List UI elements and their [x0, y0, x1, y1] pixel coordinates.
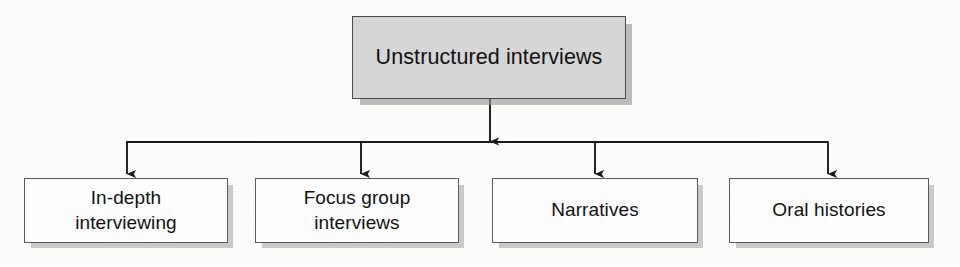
node-unstructured-interviews[interactable]: Unstructured interviews — [352, 16, 626, 99]
node-focus-group-interviews[interactable]: Focus group interviews — [255, 178, 459, 243]
node-oral-histories[interactable]: Oral histories — [729, 178, 929, 243]
node-in-depth-interviewing[interactable]: In-depth interviewing — [24, 178, 228, 243]
diagram-canvas: Unstructured interviews In-depth intervi… — [0, 0, 960, 267]
node-label: Focus group interviews — [304, 186, 411, 235]
node-label: In-depth interviewing — [75, 186, 177, 235]
node-narratives[interactable]: Narratives — [492, 178, 698, 243]
node-label: Oral histories — [772, 198, 885, 222]
node-label: Unstructured interviews — [376, 44, 603, 72]
node-label: Narratives — [551, 198, 639, 222]
